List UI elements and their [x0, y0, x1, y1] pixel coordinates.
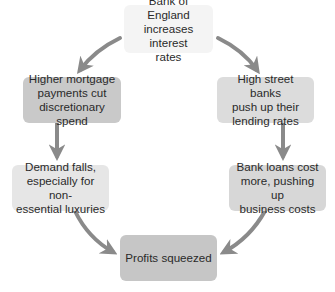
node-label: Higher mortgage payments cut discretiona…: [27, 72, 117, 128]
arrow-boe-to-banks: [218, 38, 257, 70]
node-label: Demand falls, especially for non- essent…: [16, 160, 105, 216]
node-label: Bank of England increases interest rates: [128, 0, 209, 64]
node-label: Profits squeezed: [125, 251, 211, 265]
node-demand-falls: Demand falls, especially for non- essent…: [12, 165, 109, 211]
node-profits-squeezed: Profits squeezed: [120, 235, 217, 281]
node-higher-mortgage: Higher mortgage payments cut discretiona…: [23, 77, 121, 123]
arrow-demand-to-profits: [75, 211, 113, 252]
arrow-boe-to-mortgage: [80, 38, 120, 70]
node-bank-of-england: Bank of England increases interest rates: [124, 5, 213, 53]
node-label: High street banks push up their lending …: [221, 72, 310, 128]
node-label: Bank loans cost more, pushing up busines…: [233, 160, 322, 216]
arrow-loans-to-profits: [224, 211, 265, 252]
node-high-street-banks: High street banks push up their lending …: [217, 77, 314, 123]
node-bank-loans: Bank loans cost more, pushing up busines…: [229, 165, 326, 211]
